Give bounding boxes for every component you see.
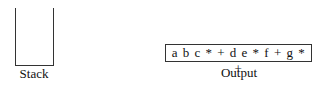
stack-label: Stack bbox=[8, 66, 60, 82]
output-label: Output bbox=[165, 65, 313, 81]
stack-container bbox=[15, 8, 54, 66]
output-box: a b c * + d e * f + g * + bbox=[165, 44, 312, 62]
